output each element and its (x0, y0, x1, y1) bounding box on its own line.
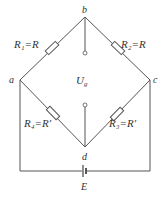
source-label-e: E (80, 181, 87, 192)
terminal-top (83, 51, 87, 55)
label-r1: R₁=R (13, 38, 39, 50)
node-label-b: b (82, 4, 87, 15)
label-r4: R₄=R′ (23, 117, 52, 129)
label-r3: R₃=R′ (108, 117, 137, 129)
resistor-r1 (45, 41, 59, 54)
node-label-c: c (153, 74, 158, 85)
bridge-circuit-diagram: b a c d R₁=R R₂=R R₃=R′ R₄=R′ Ug E (0, 0, 167, 202)
node-label-a: a (9, 74, 14, 85)
node-label-d: d (82, 151, 88, 162)
label-r2: R₂=R (120, 38, 146, 50)
output-voltage-sub: g (84, 80, 88, 88)
output-voltage-label: Ug (76, 74, 88, 88)
terminal-bottom (83, 103, 87, 107)
